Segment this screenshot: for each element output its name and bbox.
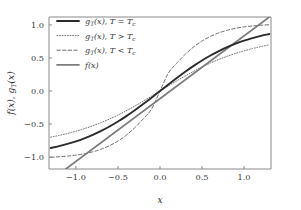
x-tick-label: −1.0 <box>66 172 86 182</box>
y-tick-label: −1.0 <box>24 152 44 162</box>
y-tick-label: 0.5 <box>31 53 44 63</box>
x-tick-label: −0.5 <box>108 172 128 182</box>
y-tick-label: 0.0 <box>31 86 44 96</box>
x-axis-label: x <box>157 195 162 205</box>
chart-svg: −1.0−0.50.00.51.0−1.0−0.50.00.51.0 x f(x… <box>0 0 301 210</box>
chart-canvas: −1.0−0.50.00.51.0−1.0−0.50.00.51.0 x f(x… <box>0 0 301 210</box>
y-tick-label: −0.5 <box>24 119 44 129</box>
x-tick-label: 0.5 <box>196 172 209 182</box>
x-tick-label: 0.0 <box>153 172 166 182</box>
y-tick-label: 1.0 <box>31 20 44 30</box>
x-tick-label: 1.0 <box>238 172 251 182</box>
figure: −1.0−0.50.00.51.0−1.0−0.50.00.51.0 x f(x… <box>0 0 301 210</box>
legend-label: f(x) <box>84 61 99 70</box>
